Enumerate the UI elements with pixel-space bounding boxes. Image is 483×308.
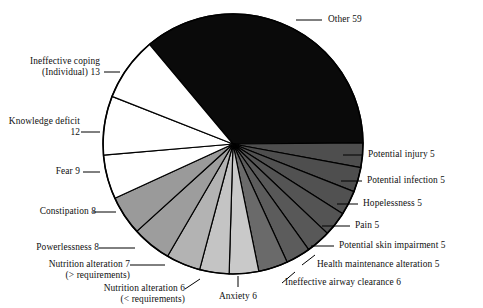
- slice-label-ineffective-coping: Ineffective coping (Individual) 13: [0, 56, 100, 77]
- slice-label-fear: Fear 9: [0, 166, 80, 177]
- slice-label-nutrition-greater: Nutrition alteration 7 (> requirements): [15, 259, 130, 280]
- slice-label-nutrition-greater-line1: Nutrition alteration 7: [49, 259, 130, 269]
- slice-label-ineffective-coping-line2: (Individual) 13: [0, 67, 100, 78]
- slice-label-hopelessness: Hopelessness 5: [363, 198, 422, 209]
- slice-label-knowledge-deficit-line1: Knowledge deficit: [9, 116, 80, 126]
- slice-label-nutrition-less-line1: Nutrition alteration 6: [104, 283, 185, 293]
- slice-label-powerlessness: Powerlessness 8: [0, 242, 99, 253]
- pie-slices-group: [103, 14, 363, 274]
- slice-label-nutrition-less: Nutrition alteration 6 (< requirements): [70, 283, 185, 304]
- slice-label-potential-infection: Potential infection 5: [367, 175, 445, 186]
- pie-chart-figure: Other 59 Ineffective coping (Individual)…: [0, 0, 483, 308]
- slice-label-nutrition-less-line2: (< requirements): [70, 294, 185, 305]
- slice-label-health-maintenance: Health maintenance alteration 5: [317, 259, 440, 270]
- slice-label-potential-injury: Potential injury 5: [368, 149, 435, 160]
- leader-line-health-maintenance: [302, 255, 315, 265]
- slice-label-nutrition-greater-line2: (> requirements): [15, 270, 130, 281]
- slice-label-pain: Pain 5: [355, 220, 379, 231]
- slice-label-knowledge-deficit-line2: 12: [0, 127, 80, 138]
- slice-label-anxiety: Anxiety 6: [208, 291, 268, 302]
- slice-label-ineffective-coping-line1: Ineffective coping: [30, 56, 100, 66]
- leader-line-nutrition-less: [185, 279, 200, 289]
- slice-label-knowledge-deficit: Knowledge deficit 12: [0, 116, 80, 137]
- slice-label-other: Other 59: [328, 14, 362, 25]
- slice-label-potential-skin: Potential skin impairment 5: [339, 240, 446, 251]
- slice-label-ineffective-airway: Ineffective airway clearance 6: [285, 277, 401, 288]
- slice-label-constipation: Constipation 8: [0, 206, 96, 217]
